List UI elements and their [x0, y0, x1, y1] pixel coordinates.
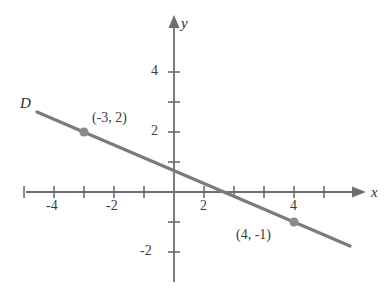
y-axis-label: y [181, 16, 188, 31]
y-tick-label-2: 2 [151, 124, 158, 138]
data-point-minus3-2 [79, 127, 88, 136]
x-axis [24, 186, 366, 198]
y-axis [168, 15, 180, 282]
graph-canvas [0, 0, 391, 291]
point-label-4-minus1: (4, -1) [236, 228, 271, 242]
x-axis-label: x [371, 185, 378, 200]
coordinate-graph-figure: x y -4 -2 2 4 4 2 -2 D (-3, 2) (4, -1) [0, 0, 391, 291]
y-axis-arrow-icon [169, 15, 180, 28]
y-tick-label-minus2: -2 [140, 244, 152, 258]
point-label-minus3-2: (-3, 2) [92, 111, 127, 125]
x-tick-label-4: 4 [290, 199, 297, 213]
data-point-4-minus1 [289, 217, 298, 226]
x-tick-label-2: 2 [200, 199, 207, 213]
line-label-d: D [20, 96, 31, 111]
x-axis-arrow-icon [352, 187, 366, 198]
x-tick-label-minus4: -4 [46, 199, 58, 213]
y-tick-label-4: 4 [151, 64, 158, 78]
x-tick-label-minus2: -2 [106, 199, 118, 213]
